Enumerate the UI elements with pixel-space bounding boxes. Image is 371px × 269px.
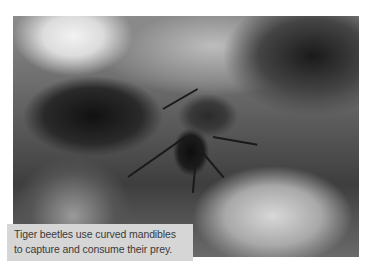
beetle-leg [127, 136, 185, 178]
beetle-leg [163, 88, 199, 110]
beetle-leg [192, 157, 197, 193]
beetle-leg [197, 146, 224, 178]
tiger-beetle-photo [13, 16, 359, 257]
beetle-leg [213, 136, 258, 146]
caption-text: Tiger beetles use curved mandibles to ca… [14, 228, 176, 255]
photo-caption: Tiger beetles use curved mandibles to ca… [7, 224, 193, 261]
